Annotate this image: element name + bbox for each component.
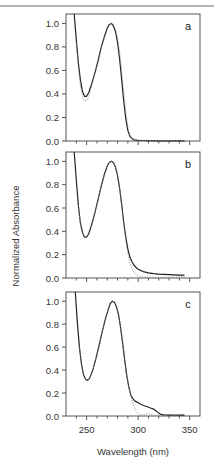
- plot-frame: [66, 14, 200, 141]
- y-tick-label: 0.6: [46, 342, 59, 353]
- y-tick-label: 0.4: [46, 365, 59, 376]
- y-tick-label: 0.0: [46, 273, 59, 284]
- y-tick-label: 0.8: [46, 41, 59, 52]
- y-tick-label: 0.4: [46, 88, 59, 99]
- x-tick-label: 250: [79, 424, 95, 435]
- x-axis-title: Wavelength (nm): [97, 446, 169, 457]
- y-tick-label: 0.6: [46, 65, 59, 76]
- panel-b: 0.00.20.40.60.81.0b: [46, 152, 200, 284]
- series-dotted: [79, 301, 184, 415]
- y-tick-label: 0.2: [46, 112, 59, 123]
- y-tick-label: 0.0: [46, 411, 59, 422]
- series-solid: [75, 292, 184, 415]
- series-solid: [74, 152, 184, 275]
- y-tick-label: 1.0: [46, 296, 59, 307]
- y-tick-label: 0.8: [46, 179, 59, 190]
- panels-container: 0.00.20.40.60.81.0a0.00.20.40.60.81.0b0.…: [46, 14, 200, 422]
- x-tick-label: 350: [182, 424, 198, 435]
- y-tick-label: 0.2: [46, 249, 59, 260]
- x-tick-label: 300: [130, 424, 146, 435]
- y-tick-label: 1.0: [46, 156, 59, 167]
- y-tick-label: 0.4: [46, 226, 59, 237]
- plot-frame: [66, 152, 200, 278]
- y-tick-label: 0.6: [46, 203, 59, 214]
- y-tick-label: 0.8: [46, 319, 59, 330]
- panel-letter: c: [185, 298, 191, 310]
- absorbance-figure: 0.00.20.40.60.81.0a0.00.20.40.60.81.0b0.…: [0, 0, 214, 466]
- y-tick-label: 1.0: [46, 18, 59, 29]
- series-solid: [74, 14, 184, 141]
- plot-frame: [66, 292, 200, 416]
- panel-a: 0.00.20.40.60.81.0a: [46, 14, 200, 147]
- panel-c: 0.00.20.40.60.81.0c: [46, 292, 200, 422]
- panel-letter: b: [185, 158, 191, 170]
- panel-letter: a: [185, 20, 192, 32]
- y-tick-label: 0.2: [46, 388, 59, 399]
- y-axis-title: Normalized Absorbance: [10, 186, 21, 287]
- y-tick-label: 0.0: [46, 136, 59, 147]
